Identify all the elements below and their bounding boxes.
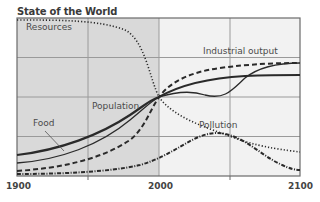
label-resources: Resources	[26, 22, 72, 32]
x-tick-1900: 1900	[6, 181, 31, 191]
label-pollution: Pollution	[199, 120, 238, 130]
label-food: Food	[33, 118, 55, 128]
label-population: Population	[92, 101, 139, 111]
label-industrial-output: Industrial output	[203, 46, 278, 56]
x-axis-ticks	[88, 176, 230, 180]
chart-plot-area: Resources Industrial output Population F…	[0, 0, 320, 202]
x-tick-2000: 2000	[148, 181, 173, 191]
x-tick-2100: 2100	[288, 181, 313, 191]
